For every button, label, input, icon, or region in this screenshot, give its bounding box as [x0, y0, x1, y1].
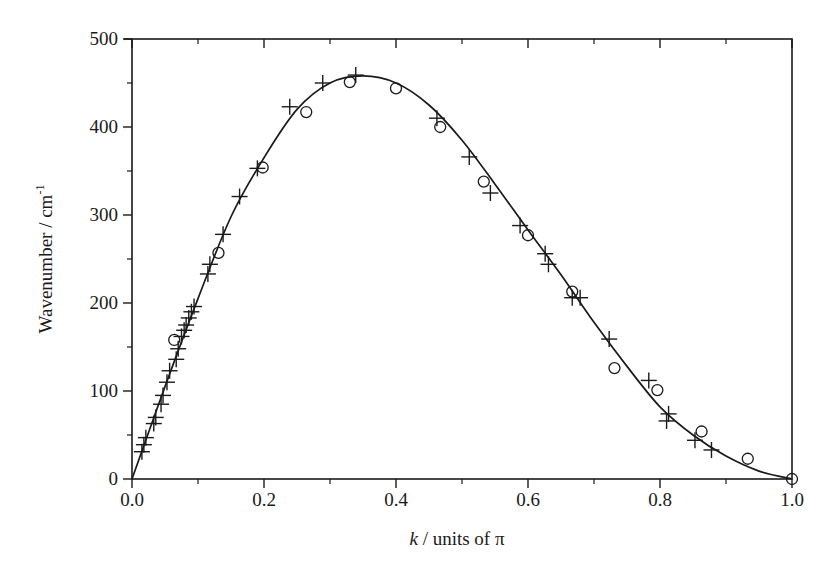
plus-marker: [134, 444, 150, 460]
plus-marker: [461, 149, 477, 165]
plus-marker: [537, 246, 553, 262]
chart: 0.00.20.40.60.81.0 0100200300400500 k / …: [0, 0, 830, 579]
x-tick-label: 0.6: [516, 489, 540, 510]
plus-marker: [429, 110, 445, 126]
plus-marker: [540, 256, 556, 272]
circle-marker: [301, 107, 312, 118]
plot-frame: [124, 39, 792, 479]
plus-marker: [659, 413, 675, 429]
plus-marker: [572, 290, 588, 306]
plus-marker: [215, 226, 231, 242]
plus-marker: [687, 432, 703, 448]
y-axis-ticks: 0100200300400500: [90, 28, 133, 489]
y-tick-label: 0: [109, 468, 119, 489]
chart-canvas: 0.00.20.40.60.81.0 0100200300400500 k / …: [0, 0, 830, 579]
plus-marker: [138, 430, 154, 446]
plus-marker: [136, 437, 152, 453]
x-axis-label: k / units of π: [409, 528, 504, 549]
cross-markers: [134, 67, 720, 460]
y-tick-label: 300: [90, 204, 119, 225]
circle-marker: [742, 453, 753, 464]
x-tick-label: 0.0: [120, 489, 144, 510]
x-tick-label: 1.0: [780, 489, 804, 510]
y-tick-label: 100: [90, 380, 119, 401]
x-axis-ticks: 0.00.20.40.60.81.0: [120, 39, 804, 510]
circle-markers: [169, 77, 798, 485]
plus-marker: [202, 256, 218, 272]
y-tick-label: 500: [90, 28, 119, 49]
plus-marker: [159, 374, 175, 390]
plus-marker: [512, 218, 528, 234]
circle-marker: [652, 385, 663, 396]
x-tick-label: 0.8: [648, 489, 672, 510]
circle-marker: [696, 426, 707, 437]
circle-marker: [435, 122, 446, 133]
plus-marker: [601, 331, 617, 347]
y-tick-label: 400: [90, 116, 119, 137]
plus-marker: [168, 351, 184, 367]
circle-marker: [609, 363, 620, 374]
plus-marker: [315, 75, 331, 91]
circle-marker: [344, 77, 355, 88]
x-tick-label: 0.4: [384, 489, 408, 510]
fit-line: [132, 76, 792, 479]
y-axis-label: Wavenumber / cm-1: [33, 185, 56, 334]
plus-marker: [200, 266, 216, 282]
circle-marker: [213, 247, 224, 258]
plus-marker: [155, 387, 171, 403]
plot-border: [132, 39, 792, 479]
fit-curve: [132, 76, 792, 479]
plus-marker: [162, 363, 178, 379]
y-tick-label: 200: [90, 292, 119, 313]
circle-marker: [391, 83, 402, 94]
circle-marker: [478, 176, 489, 187]
x-tick-label: 0.2: [252, 489, 276, 510]
